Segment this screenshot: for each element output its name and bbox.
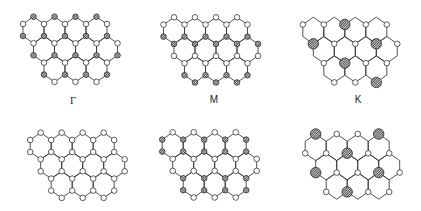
open-atom	[300, 22, 306, 28]
lattice-atoms	[302, 129, 402, 197]
open-atom	[355, 170, 361, 176]
open-atom	[171, 14, 177, 20]
panel-bottom-middle	[159, 130, 259, 201]
lattice-atoms	[161, 14, 261, 85]
hexagon-ring	[51, 133, 72, 160]
hexagon-ring	[86, 17, 107, 44]
hexagon-ring	[72, 171, 93, 198]
hatched-atom	[213, 80, 219, 86]
open-atom	[397, 170, 403, 176]
open-atom	[233, 156, 239, 162]
hexagon-ring	[183, 132, 204, 159]
open-atom	[182, 22, 188, 28]
open-atom	[101, 195, 107, 201]
open-atom	[395, 41, 401, 47]
open-atom	[234, 14, 240, 20]
open-atom	[302, 151, 308, 157]
hexagon-ring	[83, 152, 104, 179]
hexagon-ring	[23, 17, 44, 44]
hexagon-ring	[44, 17, 65, 44]
hexagon-ring	[206, 56, 227, 83]
open-atom	[386, 151, 392, 157]
open-atom	[20, 21, 26, 27]
open-atom	[384, 60, 390, 66]
open-atom	[48, 149, 54, 155]
hexagon-ring	[86, 55, 107, 82]
open-atom	[170, 168, 176, 174]
open-atom	[182, 60, 188, 66]
hexagon-ring	[225, 171, 246, 198]
hexagon-ring	[30, 133, 51, 160]
open-atom	[224, 22, 230, 28]
hatched-atom	[340, 58, 350, 68]
open-atom	[94, 79, 100, 85]
open-atom	[171, 53, 177, 59]
open-atom	[332, 80, 338, 86]
hatched-atom	[192, 80, 198, 86]
open-atom	[59, 169, 65, 175]
open-atom	[73, 41, 79, 47]
hatched-atom	[342, 148, 352, 158]
hatched-atom	[41, 33, 47, 39]
open-atom	[233, 130, 239, 136]
hatched-atom	[255, 41, 261, 47]
hexagon-ring	[215, 152, 236, 179]
hexagon-ring	[185, 17, 206, 44]
open-atom	[69, 188, 75, 194]
open-atom	[90, 149, 96, 155]
hexagon-ring	[194, 152, 215, 179]
hatched-atom	[180, 149, 186, 155]
hatched-atom	[83, 33, 89, 39]
open-atom	[321, 22, 327, 28]
open-atom	[203, 60, 209, 66]
open-atom	[323, 151, 329, 157]
hexagon-ring	[185, 56, 206, 83]
open-atom	[332, 41, 338, 47]
lattice-atoms	[159, 130, 259, 201]
open-atom	[170, 130, 176, 136]
hatched-atom	[371, 39, 381, 49]
open-atom	[233, 195, 239, 201]
hexagon-ring	[65, 17, 86, 44]
open-atom	[245, 60, 251, 66]
lattice-bonds	[303, 17, 398, 82]
hatched-atom	[180, 187, 186, 193]
hatched-atom	[222, 137, 228, 143]
hatched-atom	[41, 72, 47, 78]
hatched-atom	[213, 41, 219, 47]
lattice-diagram	[0, 0, 421, 211]
open-atom	[365, 151, 371, 157]
open-atom	[111, 188, 117, 194]
hexagon-ring	[76, 36, 97, 63]
open-atom	[386, 189, 392, 195]
panel-gamma	[20, 14, 120, 85]
open-atom	[104, 21, 110, 27]
open-atom	[365, 189, 371, 195]
hexagon-ring	[183, 171, 204, 198]
open-atom	[80, 157, 86, 163]
open-atom	[254, 156, 260, 162]
hatched-atom	[203, 34, 209, 40]
open-atom	[224, 60, 230, 66]
hatched-atom	[245, 34, 251, 40]
hatched-atom	[224, 72, 230, 78]
open-atom	[94, 41, 100, 47]
open-atom	[69, 149, 75, 155]
open-atom	[254, 168, 260, 174]
open-atom	[101, 169, 107, 175]
hatched-atom	[234, 41, 240, 47]
open-atom	[384, 22, 390, 28]
open-atom	[255, 53, 261, 59]
hatched-atom	[62, 33, 68, 39]
lattice-bonds	[305, 134, 400, 199]
hatched-atom	[201, 187, 207, 193]
hatched-atom	[222, 187, 228, 193]
label-m: M	[204, 95, 224, 105]
open-atom	[321, 60, 327, 66]
hexagon-ring	[204, 132, 225, 159]
hexagon-ring	[204, 171, 225, 198]
hatched-atom	[311, 167, 321, 177]
hatched-atom	[224, 34, 230, 40]
hexagon-ring	[173, 152, 194, 179]
open-atom	[48, 176, 54, 182]
